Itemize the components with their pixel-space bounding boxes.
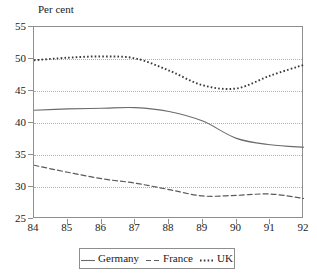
legend-item-france[interactable]: France xyxy=(146,253,193,264)
y-tick-label: 35 xyxy=(0,149,26,160)
series-line-france xyxy=(34,165,304,198)
legend-label: UK xyxy=(217,253,233,264)
legend-item-germany[interactable]: Germany xyxy=(81,253,139,264)
y-tick-label: 45 xyxy=(0,85,26,96)
legend-swatch-dotted-icon xyxy=(200,255,214,262)
y-tick-label: 55 xyxy=(0,21,26,32)
legend-item-uk[interactable]: UK xyxy=(200,253,233,264)
x-tick-label: 90 xyxy=(221,222,251,233)
plot-inner xyxy=(34,27,302,217)
x-tick-label: 88 xyxy=(153,222,183,233)
y-tick-label: 30 xyxy=(0,181,26,192)
legend-swatch-solid-icon xyxy=(81,255,95,262)
x-tick-label: 87 xyxy=(119,222,149,233)
y-tick-mark xyxy=(28,218,33,219)
legend-label: France xyxy=(163,253,193,264)
x-tick-label: 86 xyxy=(86,222,116,233)
y-tick-label: 40 xyxy=(0,117,26,128)
legend-label: Germany xyxy=(98,253,139,264)
legend-swatch-dashed-icon xyxy=(146,255,160,262)
x-tick-label: 89 xyxy=(187,222,217,233)
y-axis-title: Per cent xyxy=(38,3,74,16)
chart-figure: Per cent 25303540455055 8485868788899091… xyxy=(0,0,317,275)
chart-legend: GermanyFranceUK xyxy=(79,248,235,269)
x-tick-label: 84 xyxy=(18,222,48,233)
x-tick-label: 91 xyxy=(254,222,284,233)
series-line-germany xyxy=(34,107,304,147)
x-tick-label: 92 xyxy=(288,222,317,233)
y-tick-label: 50 xyxy=(0,53,26,64)
series-line-uk xyxy=(34,56,304,89)
plot-area xyxy=(33,26,303,218)
series-layer xyxy=(34,27,304,219)
x-tick-label: 85 xyxy=(52,222,82,233)
